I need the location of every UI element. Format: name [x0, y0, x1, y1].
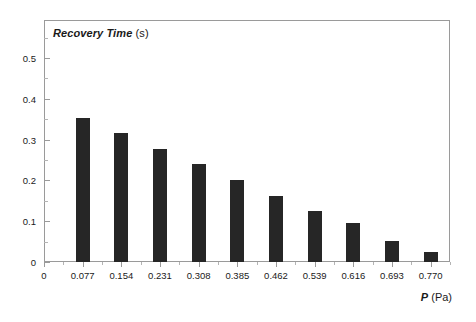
chart-title: Recovery Time (s): [53, 27, 149, 39]
bar: [153, 149, 167, 262]
y-tick-minor: [44, 201, 48, 202]
y-tick-label: 0: [2, 257, 36, 268]
x-tick-label: 0.770: [401, 270, 461, 281]
y-tick-label: 0.1: [2, 216, 36, 227]
x-tick-major: [83, 262, 84, 267]
y-tick-minor: [44, 242, 48, 243]
y-tick-major: [44, 180, 50, 181]
x-tick-minor: [218, 262, 219, 265]
y-tick-major: [44, 99, 50, 100]
x-tick-major: [431, 262, 432, 267]
bar: [114, 133, 128, 262]
x-tick-minor: [411, 262, 412, 265]
x-tick-major: [237, 262, 238, 267]
bar: [346, 223, 360, 262]
x-tick-major: [353, 262, 354, 267]
x-axis-title: P (Pa): [0, 291, 452, 303]
y-tick-major: [44, 140, 50, 141]
x-tick-major: [121, 262, 122, 267]
x-tick-major: [315, 262, 316, 267]
y-tick-minor: [44, 119, 48, 120]
y-tick-label: 0.4: [2, 93, 36, 104]
x-axis-title-units: (Pa): [428, 291, 452, 303]
y-tick-label: 0.2: [2, 175, 36, 186]
x-tick-major: [160, 262, 161, 267]
bar: [385, 241, 399, 262]
y-tick-label: 0.3: [2, 134, 36, 145]
bar: [76, 118, 90, 262]
chart-title-italic: Recovery Time: [53, 27, 132, 39]
bar: [308, 211, 322, 262]
chart-title-units: (s): [132, 27, 148, 39]
bar: [192, 164, 206, 262]
x-tick-minor: [257, 262, 258, 265]
bar: [230, 180, 244, 262]
x-tick-minor: [179, 262, 180, 265]
x-tick-minor: [141, 262, 142, 265]
x-tick-minor: [450, 262, 451, 265]
bar: [424, 252, 438, 262]
plot-area-frame: [44, 20, 450, 262]
y-tick-major: [44, 221, 50, 222]
x-tick-minor: [102, 262, 103, 265]
x-tick-major: [392, 262, 393, 267]
x-tick-major: [276, 262, 277, 267]
bar: [269, 196, 283, 262]
y-tick-minor: [44, 38, 48, 39]
x-tick-major: [199, 262, 200, 267]
y-tick-major: [44, 58, 50, 59]
x-tick-minor: [295, 262, 296, 265]
y-tick-label: 0.5: [2, 52, 36, 63]
y-tick-minor: [44, 160, 48, 161]
x-tick-minor: [334, 262, 335, 265]
x-tick-minor: [63, 262, 64, 265]
x-tick-major: [44, 262, 45, 267]
recovery-time-bar-chart: Recovery Time (s) 00.10.20.30.40.5 00.07…: [0, 0, 476, 322]
y-tick-minor: [44, 78, 48, 79]
x-tick-minor: [373, 262, 374, 265]
